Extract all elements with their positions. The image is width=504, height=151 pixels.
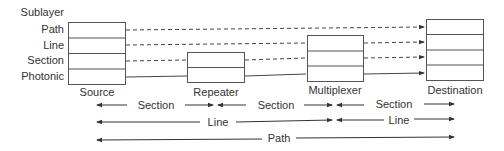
destination-label: Destination bbox=[427, 84, 482, 96]
sublayer-header: Sublayer bbox=[21, 6, 65, 18]
section-span-label-1: Section bbox=[138, 99, 175, 111]
line-connection-1 bbox=[126, 43, 306, 45]
repeater-label: Repeater bbox=[193, 86, 239, 98]
line-span-label-1: Line bbox=[208, 116, 229, 128]
section-span-label-2: Section bbox=[258, 99, 295, 111]
sonet-layer-diagram: Sublayer Path Line Section Photonic Sour… bbox=[0, 0, 504, 151]
photonic-connection-2 bbox=[245, 74, 306, 76]
sublayer-label-path: Path bbox=[41, 23, 64, 35]
photonic-connection-1 bbox=[126, 76, 187, 77]
sublayer-label-section: Section bbox=[27, 54, 64, 66]
source-node bbox=[69, 23, 126, 85]
path-span-label: Path bbox=[268, 132, 291, 144]
path-connection bbox=[126, 27, 424, 30]
destination-node bbox=[427, 20, 484, 81]
line-span-label-2: Line bbox=[389, 114, 410, 126]
sublayer-label-photonic: Photonic bbox=[21, 70, 64, 82]
section-connection-3 bbox=[364, 57, 424, 58]
photonic-connection-3 bbox=[364, 73, 424, 74]
multiplexer-label: Multiplexer bbox=[308, 84, 362, 96]
section-connection-1 bbox=[126, 60, 187, 61]
multiplexer-node bbox=[308, 36, 364, 82]
section-connection-2 bbox=[245, 58, 306, 60]
source-label: Source bbox=[80, 86, 115, 98]
repeater-node bbox=[188, 53, 245, 83]
line-connection-2 bbox=[364, 42, 424, 43]
sublayer-label-line: Line bbox=[43, 39, 64, 51]
section-span-label-3: Section bbox=[376, 98, 413, 110]
